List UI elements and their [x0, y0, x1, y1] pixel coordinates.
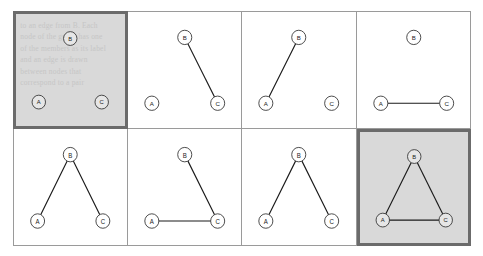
graph-node-C: C [439, 96, 453, 110]
graph-panel-4: ABC [357, 11, 472, 129]
node-label-B: B [68, 151, 72, 158]
node-label-C: C [100, 99, 105, 105]
graph-edge-BC [70, 154, 103, 220]
graph-node-C: C [210, 213, 224, 227]
node-label-C: C [329, 217, 334, 224]
graph-sequence-figure: to an edge from B. Eachnode of the graph… [13, 11, 471, 246]
node-label-B: B [182, 34, 186, 41]
graph-node-B: B [177, 30, 191, 44]
graph-node-A: A [376, 213, 389, 227]
graph-edge-BC [184, 154, 217, 220]
graph-node-C: C [210, 96, 224, 110]
graph-panel-8: ABC [357, 129, 472, 247]
node-label-C: C [215, 217, 220, 224]
node-label-C: C [329, 100, 334, 107]
graph-node-B: B [407, 149, 420, 163]
graph-panel-6: ABC [128, 129, 243, 247]
graph-drawing: ABC [242, 12, 356, 128]
graph-node-C: C [325, 213, 339, 227]
graph-edge-AB [382, 156, 413, 220]
graph-edge-AB [266, 37, 299, 103]
graph-node-B: B [63, 147, 77, 161]
graph-node-B: B [406, 30, 420, 44]
graph-node-B: B [292, 147, 306, 161]
node-label-B: B [412, 153, 416, 159]
graph-panel-2: ABC [128, 11, 243, 129]
node-label-B: B [297, 34, 301, 41]
node-label-A: A [380, 217, 384, 223]
graph-node-A: A [373, 96, 387, 110]
node-label-B: B [411, 34, 415, 41]
graph-edge-BC [184, 37, 217, 103]
graph-drawing: ABC [16, 14, 125, 126]
node-label-C: C [444, 100, 449, 107]
node-label-C: C [101, 217, 106, 224]
graph-drawing: ABC [360, 132, 469, 244]
graph-edge-BC [299, 154, 332, 220]
graph-node-C: C [438, 213, 451, 227]
graph-node-C: C [96, 213, 110, 227]
graph-edge-BC [414, 156, 445, 220]
node-label-A: A [37, 99, 41, 105]
graph-drawing: ABC [242, 129, 356, 246]
graph-edge-AB [266, 154, 299, 220]
graph-node-C: C [95, 95, 108, 109]
node-label-B: B [297, 151, 301, 158]
graph-drawing: ABC [128, 12, 242, 128]
graph-node-A: A [32, 95, 45, 109]
graph-drawing: ABC [357, 12, 471, 128]
graph-panel-1: to an edge from B. Eachnode of the graph… [13, 11, 128, 129]
graph-panel-3: ABC [242, 11, 357, 129]
graph-node-B: B [177, 147, 191, 161]
node-label-B: B [182, 151, 186, 158]
graph-node-A: A [144, 96, 158, 110]
graph-node-A: A [31, 213, 45, 227]
graph-node-C: C [325, 96, 339, 110]
node-label-C: C [443, 217, 448, 223]
graph-drawing: ABC [128, 129, 242, 246]
graph-drawing: ABC [14, 129, 127, 246]
graph-panel-5: ABC [13, 129, 128, 247]
graph-node-A: A [259, 213, 273, 227]
node-label-B: B [68, 36, 72, 42]
graph-node-A: A [144, 213, 158, 227]
graph-edge-AB [38, 154, 71, 220]
graph-node-B: B [292, 30, 306, 44]
graph-node-B: B [64, 32, 77, 46]
graph-node-A: A [259, 96, 273, 110]
node-label-C: C [215, 100, 220, 107]
panel-grid: to an edge from B. Eachnode of the graph… [13, 11, 471, 246]
graph-panel-7: ABC [242, 129, 357, 247]
